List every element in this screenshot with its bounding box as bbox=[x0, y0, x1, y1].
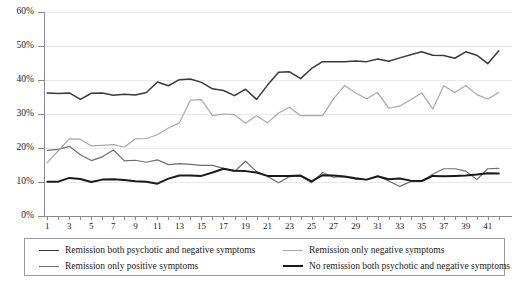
x-axis-tick bbox=[113, 216, 114, 220]
legend-item[interactable]: Remission only positive symptoms bbox=[39, 258, 198, 274]
x-axis-tick bbox=[389, 216, 390, 220]
x-axis-tick bbox=[135, 216, 136, 220]
x-axis-tick-label: 5 bbox=[82, 221, 100, 232]
x-axis-tick bbox=[455, 216, 456, 220]
figure-root: 0%10%20%30%40%50%60% 1357911131517192123… bbox=[0, 0, 527, 292]
line-chart: 0%10%20%30%40%50%60% 1357911131517192123… bbox=[0, 0, 527, 232]
x-axis-tick-label: 29 bbox=[347, 221, 365, 232]
y-axis-tick-label: 40% bbox=[0, 75, 34, 84]
x-axis-tick-label: 21 bbox=[259, 221, 277, 232]
x-axis-tick-label: 37 bbox=[435, 221, 453, 232]
x-axis-tick-label: 31 bbox=[369, 221, 387, 232]
x-axis-tick-label: 3 bbox=[60, 221, 78, 232]
x-axis-tick bbox=[290, 216, 291, 220]
x-axis-tick bbox=[488, 216, 489, 220]
y-axis-tick-label: 0% bbox=[0, 211, 34, 220]
x-axis-tick bbox=[334, 216, 335, 220]
x-axis-tick-label: 9 bbox=[126, 221, 144, 232]
x-axis-tick-label: 1 bbox=[38, 221, 56, 232]
series-line bbox=[47, 169, 498, 184]
y-axis-tick-label: 60% bbox=[0, 7, 34, 16]
legend-line-swatch bbox=[39, 250, 59, 251]
legend-line-swatch bbox=[283, 265, 303, 267]
legend-item[interactable]: Remission only negative symptoms bbox=[283, 242, 444, 258]
x-axis-tick-label: 25 bbox=[303, 221, 321, 232]
x-axis-tick bbox=[246, 216, 247, 220]
x-axis-tick-label: 33 bbox=[391, 221, 409, 232]
x-axis-tick-label: 41 bbox=[479, 221, 497, 232]
y-axis-tick-label: 10% bbox=[0, 177, 34, 186]
x-axis-tick bbox=[312, 216, 313, 220]
x-axis-tick bbox=[124, 216, 125, 220]
x-axis-tick bbox=[411, 216, 412, 220]
x-axis-tick bbox=[433, 216, 434, 220]
x-axis-tick bbox=[323, 216, 324, 220]
x-axis-tick bbox=[91, 216, 92, 220]
series-lines bbox=[44, 12, 512, 216]
x-axis-tick-label: 23 bbox=[281, 221, 299, 232]
x-axis-tick-label: 15 bbox=[192, 221, 210, 232]
x-axis-tick bbox=[367, 216, 368, 220]
x-axis-tick bbox=[235, 216, 236, 220]
x-axis-tick bbox=[58, 216, 59, 220]
legend-item[interactable]: No remission both psychotic and negative… bbox=[283, 258, 510, 274]
x-axis-tick-label: 27 bbox=[325, 221, 343, 232]
y-axis-tick-label: 30% bbox=[0, 109, 34, 118]
x-axis-tick-label: 7 bbox=[104, 221, 122, 232]
x-axis-tick bbox=[47, 216, 48, 220]
x-axis-tick bbox=[378, 216, 379, 220]
series-line bbox=[47, 146, 498, 186]
x-axis-tick bbox=[301, 216, 302, 220]
x-axis-tick bbox=[190, 216, 191, 220]
x-axis-tick bbox=[157, 216, 158, 220]
series-line bbox=[47, 51, 498, 100]
x-axis-tick bbox=[146, 216, 147, 220]
legend-item-label: Remission only positive symptoms bbox=[65, 261, 198, 272]
x-axis-tick-label: 19 bbox=[237, 221, 255, 232]
x-axis-tick-label: 39 bbox=[457, 221, 475, 232]
y-axis-tick-label: 20% bbox=[0, 143, 34, 152]
x-axis-tick bbox=[257, 216, 258, 220]
x-axis-tick bbox=[444, 216, 445, 220]
legend-item-label: Remission only negative symptoms bbox=[309, 245, 444, 256]
x-axis-tick bbox=[466, 216, 467, 220]
legend-line-swatch bbox=[283, 250, 303, 251]
x-axis-tick bbox=[179, 216, 180, 220]
x-axis-tick bbox=[499, 216, 500, 220]
x-axis-tick bbox=[102, 216, 103, 220]
x-axis-tick bbox=[69, 216, 70, 220]
x-axis-tick bbox=[477, 216, 478, 220]
x-axis-tick-label: 17 bbox=[214, 221, 232, 232]
legend-item-label: No remission both psychotic and negative… bbox=[309, 261, 510, 272]
x-axis-tick-label: 11 bbox=[148, 221, 166, 232]
x-axis-tick bbox=[279, 216, 280, 220]
x-axis-tick bbox=[400, 216, 401, 220]
x-axis-tick bbox=[212, 216, 213, 220]
x-axis-tick bbox=[268, 216, 269, 220]
x-axis-tick bbox=[80, 216, 81, 220]
chart-legend: Remission both psychotic and negative sy… bbox=[24, 238, 505, 276]
x-axis-tick bbox=[223, 216, 224, 220]
legend-item-label: Remission both psychotic and negative sy… bbox=[65, 245, 255, 256]
x-axis-tick-label: 35 bbox=[413, 221, 431, 232]
x-axis-tick bbox=[345, 216, 346, 220]
legend-item[interactable]: Remission both psychotic and negative sy… bbox=[39, 242, 255, 258]
y-axis-tick-label: 50% bbox=[0, 41, 34, 50]
x-axis-tick bbox=[201, 216, 202, 220]
x-axis-tick bbox=[168, 216, 169, 220]
x-axis-tick bbox=[422, 216, 423, 220]
x-axis-tick-label: 13 bbox=[170, 221, 188, 232]
figure-caption bbox=[0, 284, 527, 292]
legend-line-swatch bbox=[39, 266, 59, 267]
x-axis-tick bbox=[356, 216, 357, 220]
